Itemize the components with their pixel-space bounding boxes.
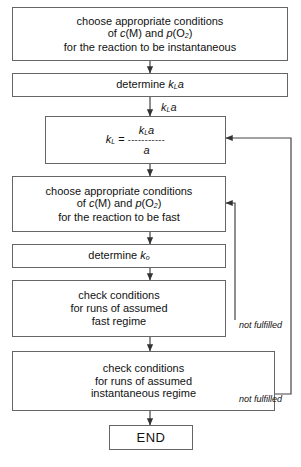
determine-kla-text: determine kLa [16, 78, 284, 91]
line2-end: ) [158, 197, 162, 209]
node-line-1: choose appropriate conditions [16, 15, 284, 28]
node-end[interactable]: END [109, 425, 193, 450]
line2-suffix: (O [173, 27, 185, 39]
determine-k0-text: determine ko [16, 249, 222, 262]
formula-fraction: kLa ----------- a [128, 124, 165, 157]
label-symbol-a: a [170, 101, 176, 113]
node-line-1: choose appropriate conditions [16, 185, 222, 198]
determine-prefix: determine [116, 78, 168, 90]
formula-lhs: kL = [106, 133, 125, 146]
node-choose-fast[interactable]: choose appropriate conditions of c(M) an… [12, 176, 226, 232]
flowchart-canvas: choose appropriate conditions of c(M) an… [0, 0, 301, 467]
line2-mid: (M) and [94, 197, 135, 209]
line2-prefix: of [108, 27, 120, 39]
label-kla-above-formula: kLa [161, 101, 177, 113]
formula-denominator: a [128, 144, 165, 156]
node-determine-kla[interactable]: determine kLa [12, 73, 288, 97]
formula-subscript-L: L [111, 138, 115, 145]
line2-mid: (M) and [125, 27, 166, 39]
node-line-1: check conditions [16, 289, 222, 302]
subscript-o: o [146, 254, 150, 261]
node-line-2: for runs of assumed [16, 375, 271, 388]
label-not-fulfilled-instantaneous: not fulfilled [239, 394, 282, 404]
formula-fraction-bar: ----------- [128, 136, 165, 144]
denominator-symbol-a: a [143, 144, 149, 156]
node-line-2: of c(M) and p(O2) [16, 27, 284, 40]
symbol-a: a [178, 78, 184, 90]
end-label: END [110, 430, 192, 445]
node-check-fast[interactable]: check conditions for runs of assumed fas… [12, 280, 226, 337]
node-line-2: for runs of assumed [16, 302, 222, 315]
node-line-3: for the reaction to be instantaneous [16, 41, 284, 54]
node-choose-instantaneous[interactable]: choose appropriate conditions of c(M) an… [12, 7, 288, 61]
node-line-2: of c(M) and p(O2) [16, 197, 222, 210]
node-kl-formula[interactable]: kL = kLa ----------- a [45, 116, 226, 164]
line2-prefix: of [77, 197, 89, 209]
node-line-1: check conditions [16, 362, 271, 375]
numerator-symbol-a: a [148, 124, 154, 136]
node-line-3: instantaneous regime [16, 387, 271, 400]
line2-end: ) [189, 27, 193, 39]
label-not-fulfilled-fast: not fulfilled [239, 320, 282, 330]
line2-suffix: (O [142, 197, 154, 209]
formula-equals: = [118, 133, 124, 145]
edge-feedback-inner-not-fulfilled [226, 203, 235, 320]
node-check-instantaneous[interactable]: check conditions for runs of assumed ins… [12, 351, 275, 411]
node-determine-k0[interactable]: determine ko [12, 244, 226, 268]
node-line-3: fast regime [16, 315, 222, 328]
determine-prefix: determine [88, 249, 140, 261]
node-line-3: for the reaction to be fast [16, 211, 222, 224]
